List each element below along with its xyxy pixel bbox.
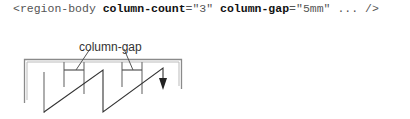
column-flow-diagram — [0, 0, 410, 119]
down-arrow-icon — [159, 78, 167, 90]
flow-path — [44, 68, 163, 112]
